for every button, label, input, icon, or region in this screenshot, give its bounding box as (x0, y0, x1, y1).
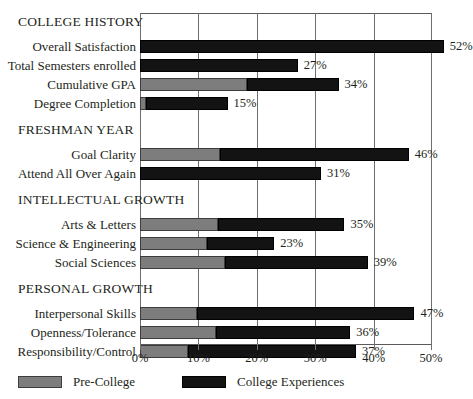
row-label: Attend All Over Again (1, 166, 136, 181)
bar-row: 39% (140, 256, 432, 269)
row-label: Openness/Tolerance (1, 325, 136, 340)
bar-row: 36% (140, 326, 432, 339)
bar-segment-pre-college (140, 237, 207, 250)
x-tick-label: 40% (362, 350, 385, 366)
bar-segment-college-experiences (220, 148, 409, 161)
bar-segment-pre-college (140, 326, 216, 339)
bar-value-label: 52% (450, 37, 473, 56)
bar-value-label: 39% (374, 253, 397, 272)
x-axis: 0%10%20%30%40%50% (140, 345, 432, 367)
bar-row: 27% (140, 59, 432, 72)
group-label: PERSONAL GROWTH (18, 281, 153, 297)
bar-row: 47% (140, 307, 432, 320)
bar-row: 46% (140, 148, 432, 161)
legend-label: College Experiences (237, 373, 344, 391)
bar-segment-college-experiences (197, 307, 414, 320)
row-label: Degree Completion (1, 96, 136, 111)
chart-legend: Pre-CollegeCollege Experiences (0, 374, 441, 399)
row-label: Goal Clarity (1, 147, 136, 162)
bar-row: 52% (140, 40, 432, 53)
row-label: Arts & Letters (1, 217, 136, 232)
x-tick-label: 20% (245, 350, 268, 366)
bar-segment-pre-college (140, 256, 225, 269)
group-label: INTELLECTUAL GROWTH (18, 192, 184, 208)
bar-segment-college-experiences (207, 237, 274, 250)
x-tick-label: 50% (420, 350, 443, 366)
bar-segment-pre-college (140, 218, 218, 231)
bar-value-label: 34% (345, 75, 368, 94)
x-tick-label: 30% (304, 350, 327, 366)
bar-segment-pre-college (140, 148, 220, 161)
bar-row: 34% (140, 78, 432, 91)
legend-swatch-col (182, 376, 226, 388)
bar-segment-college-experiences (247, 78, 339, 91)
bar-segment-college-experiences (225, 256, 368, 269)
bar-value-label: 27% (304, 56, 327, 75)
row-label: Cumulative GPA (1, 77, 136, 92)
plot-area: 52%27%34%15%46%31%35%23%39%47%36%37% (140, 13, 432, 345)
row-label: Responsibility/Control (1, 344, 136, 359)
bar-segment-college-experiences (218, 218, 344, 231)
bar-segment-college-experiences (140, 40, 444, 53)
bar-value-label: 35% (350, 215, 373, 234)
bar-value-label: 47% (420, 304, 443, 323)
bar-row: 31% (140, 167, 432, 180)
bar-row: 35% (140, 218, 432, 231)
bar-row: 23% (140, 237, 432, 250)
x-tick-label: 0% (132, 350, 149, 366)
bar-segment-college-experiences (140, 167, 321, 180)
row-label: Interpersonal Skills (1, 306, 136, 321)
bar-row: 15% (140, 97, 432, 110)
bar-segment-college-experiences (216, 326, 350, 339)
group-label: COLLEGE HISTORY (18, 14, 143, 30)
bar-segment-pre-college (140, 307, 197, 320)
bar-value-label: 15% (234, 94, 257, 113)
bar-value-label: 36% (356, 323, 379, 342)
plot-top-border (140, 13, 432, 14)
bar-segment-college-experiences (140, 59, 298, 72)
bar-value-label: 46% (415, 145, 438, 164)
x-tick-label: 10% (187, 350, 210, 366)
bar-value-label: 23% (280, 234, 303, 253)
legend-swatch-pre (18, 376, 62, 388)
bar-segment-pre-college (140, 78, 247, 91)
row-label: Overall Satisfaction (1, 39, 136, 54)
row-label: Science & Engineering (1, 236, 136, 251)
bar-value-label: 31% (327, 164, 350, 183)
legend-label: Pre-College (73, 373, 135, 391)
row-label: Social Sciences (1, 255, 136, 270)
group-label: FRESHMAN YEAR (18, 122, 134, 138)
row-label: Total Semesters enrolled (1, 58, 136, 73)
bar-segment-college-experiences (146, 97, 228, 110)
